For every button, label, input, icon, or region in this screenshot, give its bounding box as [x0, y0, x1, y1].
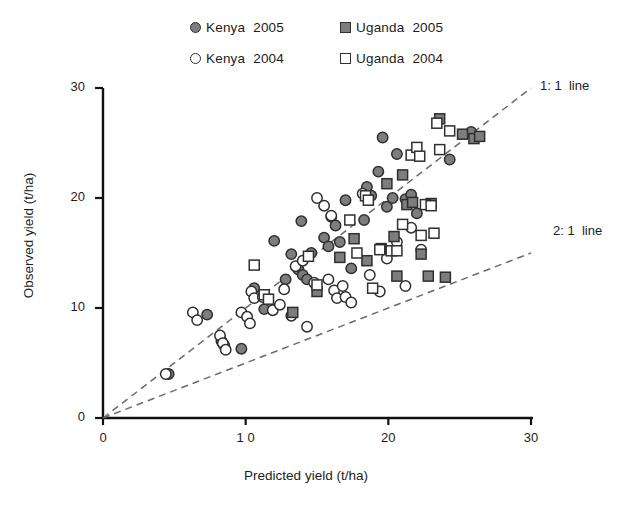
data-point — [416, 249, 426, 259]
data-point — [444, 154, 454, 164]
data-point — [382, 179, 392, 189]
data-point — [280, 274, 290, 284]
data-point — [475, 131, 485, 141]
data-point — [387, 193, 397, 203]
data-point — [323, 274, 333, 284]
data-point — [398, 219, 408, 229]
data-point — [377, 132, 387, 142]
data-point — [346, 297, 356, 307]
x-tick-label: 20 — [371, 430, 405, 445]
data-points — [161, 114, 485, 379]
data-point — [392, 246, 402, 256]
data-point — [375, 245, 385, 255]
data-point — [245, 318, 255, 328]
data-point — [335, 252, 345, 262]
y-axis-title: Observed yield (t/ha) — [21, 146, 36, 326]
data-point — [365, 270, 375, 280]
data-point — [330, 220, 340, 230]
x-tick-label: 0 — [86, 430, 120, 445]
data-point — [362, 256, 372, 266]
x-tick-label: 1 0 — [229, 430, 263, 445]
data-point — [398, 170, 408, 180]
data-point — [408, 197, 418, 207]
data-point — [340, 195, 350, 205]
data-point — [352, 248, 362, 258]
data-point — [359, 215, 369, 225]
data-point — [392, 149, 402, 159]
data-point — [429, 228, 439, 238]
data-point — [326, 210, 336, 220]
data-point — [392, 271, 402, 281]
annotation-21line: 2: 1 line — [553, 223, 602, 238]
data-point — [161, 369, 171, 379]
chart-figure: Kenya 2005 Uganda 2005 Kenya 2004 Uganda… — [0, 0, 631, 505]
data-point — [236, 344, 246, 354]
data-point — [269, 236, 279, 246]
data-point — [288, 307, 298, 317]
y-tick-label: 0 — [51, 409, 85, 424]
data-point — [458, 129, 468, 139]
data-point — [263, 294, 273, 304]
data-point — [415, 151, 425, 161]
y-tick-label: 10 — [51, 299, 85, 314]
data-point — [279, 284, 289, 294]
data-point — [286, 249, 296, 259]
x-tick-label: 30 — [514, 430, 548, 445]
data-point — [275, 300, 285, 310]
data-point — [192, 315, 202, 325]
data-point — [345, 215, 355, 225]
data-point — [346, 263, 356, 273]
data-point — [426, 201, 436, 211]
data-point — [416, 230, 426, 240]
y-tick-label: 20 — [51, 189, 85, 204]
data-point — [220, 345, 230, 355]
data-point — [303, 251, 313, 261]
data-point — [440, 272, 450, 282]
data-point — [363, 195, 373, 205]
y-tick-label: 30 — [51, 79, 85, 94]
data-point — [319, 201, 329, 211]
data-point — [335, 237, 345, 247]
data-point — [400, 281, 410, 291]
data-point — [249, 260, 259, 270]
data-point — [389, 232, 399, 242]
data-point — [296, 216, 306, 226]
data-point — [323, 241, 333, 251]
data-point — [423, 271, 433, 281]
data-point — [202, 309, 212, 319]
data-point — [435, 145, 445, 155]
data-point — [432, 118, 442, 128]
data-point — [349, 234, 359, 244]
data-point — [302, 322, 312, 332]
x-axis-title: Predicted yield (t/ha) — [196, 468, 416, 483]
data-point — [368, 283, 378, 293]
data-point — [373, 166, 383, 176]
data-point — [337, 281, 347, 291]
data-point — [445, 126, 455, 136]
data-point — [312, 280, 322, 290]
annotation-11line: 1: 1 line — [540, 78, 589, 93]
